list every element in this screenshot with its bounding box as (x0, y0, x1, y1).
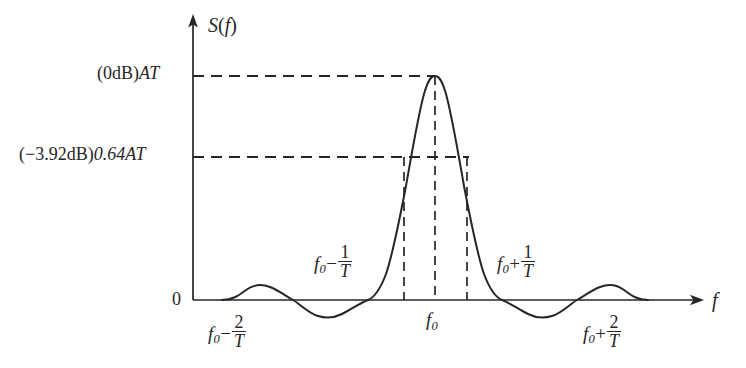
x-label-subscript: 0 (320, 262, 326, 276)
x-label-sign: − (220, 323, 231, 344)
x-label-subscript: 0 (214, 332, 220, 346)
fraction-numerator: 1 (338, 243, 352, 261)
x-label-fraction: 1 T (521, 243, 535, 281)
x-label-fraction: 1 T (338, 243, 352, 281)
x-label-f0-plus-1-over-T: f0+ 1 T (497, 243, 536, 281)
peak-level-db: (0dB) (97, 63, 139, 83)
x-label-base: f (208, 323, 213, 344)
axis-group (188, 14, 704, 305)
y-axis-label-fn: S (208, 14, 218, 36)
fraction-denominator: T (232, 331, 246, 351)
x-label-base: f (497, 253, 502, 274)
half-power-level-db: (−3.92dB) (19, 144, 94, 164)
half-power-level-label: (−3.92dB)0.64AT (19, 145, 146, 163)
x-label-subscript: 0 (503, 262, 509, 276)
spectrum-figure: S(f) f 0 (0dB)AT (−3.92dB)0.64AT f0− 2 T… (0, 0, 746, 368)
peak-level-amplitude: AT (139, 63, 159, 83)
x-label-sign: − (326, 253, 337, 274)
x-label-base: f (314, 253, 319, 274)
fraction-denominator: T (521, 261, 535, 281)
x-label-subscript: 0 (589, 332, 595, 346)
x-label-sign: + (509, 253, 520, 274)
x-label-sign: + (595, 323, 606, 344)
fraction-numerator: 1 (521, 243, 535, 261)
y-axis-label: S(f) (208, 15, 237, 35)
x-label-fraction: 2 T (232, 313, 246, 351)
fraction-numerator: 2 (232, 313, 246, 331)
x-label-f0-plus-2-over-T: f0+ 2 T (583, 313, 622, 351)
x-label-f0-center: f0 (426, 310, 438, 332)
half-power-level-amplitude: 0.64AT (94, 144, 146, 164)
x-label-base: f (583, 323, 588, 344)
origin-label: 0 (172, 290, 181, 308)
fraction-denominator: T (607, 331, 621, 351)
fraction-denominator: T (338, 261, 352, 281)
x-label-base: f (426, 309, 431, 330)
vertical-dash-group (404, 76, 467, 300)
fraction-numerator: 2 (607, 313, 621, 331)
level-dash-group (193, 76, 469, 157)
x-label-f0-minus-1-over-T: f0− 1 T (314, 243, 353, 281)
x-label-fraction: 2 T (607, 313, 621, 351)
x-label-subscript: 0 (432, 319, 438, 333)
spectrum-plot-svg (0, 0, 746, 368)
y-axis-label-open: ( (218, 14, 225, 36)
peak-level-label: (0dB)AT (97, 64, 159, 82)
y-axis-label-close: ) (230, 14, 237, 36)
x-label-f0-minus-2-over-T: f0− 2 T (208, 313, 247, 351)
x-axis-label: f (712, 290, 718, 310)
